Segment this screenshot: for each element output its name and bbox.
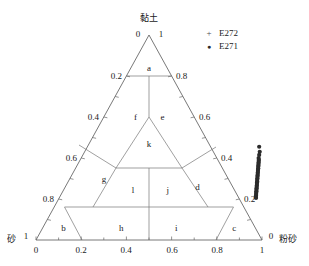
texture-class-a: a — [147, 63, 151, 73]
texture-class-l: l — [132, 185, 135, 195]
legend-marker-e271: ● — [207, 43, 211, 51]
series-legend: + E272 ● E271 — [206, 28, 238, 51]
texture-class-e: e — [160, 112, 164, 122]
right-corner-value: 0 — [269, 231, 274, 241]
right-tick-1: 0.6 — [199, 112, 211, 122]
texture-class-f: f — [134, 112, 137, 122]
legend-marker-e272: + — [206, 28, 211, 38]
texture-class-c: c — [232, 223, 236, 233]
right-axis-label: 粉砂 — [279, 233, 297, 244]
apex-right-value: 1 — [159, 29, 164, 39]
bottom-axis-tick-labels: 0 0.2 0.4 0.6 0.8 1 — [34, 245, 265, 255]
ternary-diagram: 黏土 0 1 砂 1 粉砂 0 0.2 0.4 0.6 0.8 0.8 0.6 … — [0, 0, 309, 266]
bottom-tick-2: 0.4 — [120, 245, 132, 255]
texture-class-j: j — [166, 185, 170, 195]
texture-class-h: h — [119, 223, 124, 233]
left-tick-2: 0.6 — [66, 153, 78, 163]
left-axis-label: 砂 — [7, 233, 16, 244]
right-tick-3: 0.2 — [244, 194, 255, 204]
legend-label-e271: E271 — [219, 41, 238, 51]
data-point-E271 — [257, 145, 261, 149]
bottom-tick-3: 0.6 — [166, 245, 178, 255]
texture-class-b: b — [61, 223, 66, 233]
left-tick-3: 0.8 — [43, 194, 55, 204]
right-tick-2: 0.4 — [221, 153, 233, 163]
bottom-tick-1: 0.2 — [75, 245, 86, 255]
texture-class-d: d — [195, 182, 200, 192]
left-tick-0: 0.2 — [111, 71, 122, 81]
bottom-tick-5: 1 — [260, 245, 265, 255]
apex-axis-label: 黏土 — [140, 12, 158, 23]
left-tick-1: 0.4 — [88, 112, 100, 122]
left-axis-tick-labels: 0.2 0.4 0.6 0.8 — [43, 71, 122, 204]
apex-left-value: 0 — [136, 29, 141, 39]
bottom-tick-4: 0.8 — [211, 245, 223, 255]
class-boundary-lines — [65, 76, 234, 240]
texture-class-k: k — [147, 139, 152, 149]
texture-class-g: g — [102, 174, 107, 184]
bottom-tick-0: 0 — [34, 245, 39, 255]
figure-canvas: 黏土 0 1 砂 1 粉砂 0 0.2 0.4 0.6 0.8 0.8 0.6 … — [0, 0, 309, 266]
data-point-E271 — [254, 196, 258, 200]
right-tick-0: 0.8 — [176, 71, 188, 81]
texture-class-i: i — [175, 223, 178, 233]
data-point-layer — [254, 145, 262, 200]
left-corner-value: 1 — [24, 231, 29, 241]
legend-label-e272: E272 — [219, 28, 238, 38]
right-axis-tick-labels: 0.8 0.6 0.4 0.2 — [176, 71, 255, 204]
